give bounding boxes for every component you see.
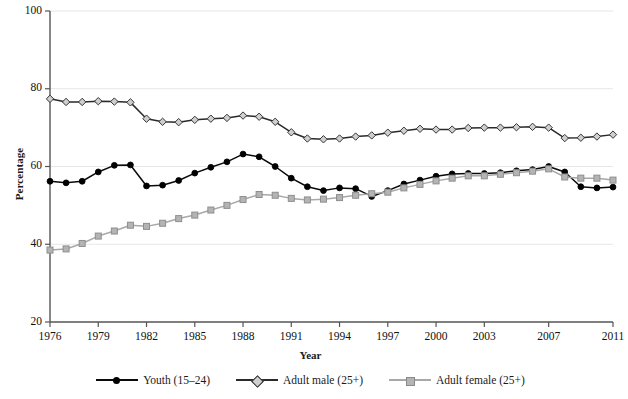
- data-point-marker: [529, 123, 536, 130]
- legend-swatch-circle-icon: [96, 374, 138, 386]
- data-point-marker: [481, 124, 488, 131]
- data-point-marker: [401, 185, 407, 191]
- data-point-marker: [47, 247, 53, 253]
- data-point-marker: [47, 178, 53, 184]
- data-point-marker: [78, 98, 85, 105]
- data-point-marker: [128, 162, 134, 168]
- x-tick-label: 1982: [125, 330, 169, 342]
- data-point-marker: [513, 124, 520, 131]
- data-point-marker: [385, 189, 391, 195]
- data-point-marker: [224, 202, 230, 208]
- data-point-marker: [353, 186, 359, 192]
- data-point-marker: [192, 170, 198, 176]
- series-square: [47, 166, 616, 253]
- data-point-marker: [223, 114, 230, 121]
- data-point-marker: [159, 118, 166, 125]
- data-point-marker: [272, 164, 278, 170]
- data-point-marker: [95, 169, 101, 175]
- data-point-marker: [304, 184, 310, 190]
- x-tick-label: 1997: [366, 330, 410, 342]
- data-point-marker: [497, 124, 504, 131]
- legend-item[interactable]: Youth (15–24): [96, 374, 210, 386]
- legend-label: Adult female (25+): [436, 374, 525, 386]
- data-point-marker: [513, 170, 519, 176]
- data-point-marker: [465, 173, 471, 179]
- legend-item[interactable]: Adult female (25+): [389, 374, 525, 386]
- series-line: [50, 99, 613, 139]
- series-diamond: [46, 95, 616, 143]
- data-point-marker: [144, 223, 150, 229]
- y-tick-label: 40: [14, 237, 42, 249]
- data-point-marker: [288, 195, 294, 201]
- data-point-marker: [240, 151, 246, 157]
- y-tick-label: 80: [14, 81, 42, 93]
- data-point-marker: [144, 183, 150, 189]
- data-point-marker: [79, 178, 85, 184]
- legend-marker: [113, 377, 120, 384]
- data-point-marker: [337, 185, 343, 191]
- data-point-marker: [111, 98, 118, 105]
- data-point-marker: [304, 135, 311, 142]
- data-point-marker: [368, 132, 375, 139]
- legend-label: Youth (15–24): [143, 374, 210, 386]
- data-point-marker: [160, 220, 166, 226]
- data-point-marker: [546, 166, 552, 172]
- data-point-marker: [127, 222, 133, 228]
- x-axis-title: Year: [0, 349, 621, 361]
- legend-swatch-square-icon: [389, 374, 431, 386]
- data-point-marker: [288, 175, 294, 181]
- data-point-marker: [497, 171, 503, 177]
- data-point-marker: [240, 197, 246, 203]
- y-axis-title: Percentage: [13, 119, 25, 229]
- data-point-marker: [160, 182, 166, 188]
- x-tick-label: 2003: [462, 330, 506, 342]
- data-point-marker: [417, 181, 423, 187]
- series-line: [50, 169, 613, 250]
- data-point-marker: [191, 116, 198, 123]
- data-point-marker: [288, 129, 295, 136]
- x-tick-label: 2011: [591, 330, 628, 342]
- data-point-marker: [272, 118, 279, 125]
- data-point-marker: [577, 134, 584, 141]
- data-point-marker: [239, 112, 246, 119]
- data-point-marker: [224, 159, 230, 165]
- y-tick-label: 20: [14, 315, 42, 327]
- data-point-marker: [63, 180, 69, 186]
- x-tick-label: 1994: [318, 330, 362, 342]
- data-point-marker: [176, 216, 182, 222]
- data-point-marker: [79, 240, 85, 246]
- data-point-marker: [207, 115, 214, 122]
- data-point-marker: [62, 98, 69, 105]
- x-tick-label: 2000: [414, 330, 458, 342]
- series-line: [50, 154, 613, 196]
- y-tick-label: 100: [14, 4, 42, 16]
- data-point-marker: [46, 95, 53, 102]
- data-point-marker: [530, 168, 536, 174]
- data-point-marker: [256, 154, 262, 160]
- data-point-marker: [320, 196, 326, 202]
- data-point-marker: [95, 97, 102, 104]
- legend-swatch-diamond-icon: [236, 374, 278, 386]
- legend-item[interactable]: Adult male (25+): [236, 374, 363, 386]
- legend-label: Adult male (25+): [283, 374, 363, 386]
- data-point-marker: [416, 125, 423, 132]
- data-point-marker: [578, 175, 584, 181]
- data-point-marker: [272, 192, 278, 198]
- data-point-marker: [449, 175, 455, 181]
- data-point-marker: [594, 185, 600, 191]
- data-point-marker: [578, 184, 584, 190]
- data-point-marker: [432, 126, 439, 133]
- data-point-marker: [337, 195, 343, 201]
- data-point-marker: [255, 113, 262, 120]
- data-point-marker: [63, 246, 69, 252]
- data-point-marker: [545, 124, 552, 131]
- data-point-marker: [353, 192, 359, 198]
- data-point-marker: [256, 191, 262, 197]
- data-point-marker: [400, 127, 407, 134]
- chart-legend: Youth (15–24)Adult male (25+)Adult femal…: [0, 374, 621, 386]
- data-point-marker: [304, 197, 310, 203]
- x-tick-label: 1991: [269, 330, 313, 342]
- data-point-marker: [208, 207, 214, 213]
- series-circle: [47, 151, 616, 199]
